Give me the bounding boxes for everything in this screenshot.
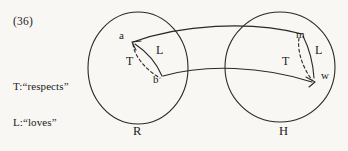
node-label-b: b [153, 74, 159, 86]
example-number: (36) [13, 15, 33, 27]
legend-line-T: T:“respects” [13, 81, 69, 93]
relation-label-T-left: T [126, 55, 133, 68]
relation-label-L-right: L [315, 44, 322, 57]
circle-H [225, 12, 335, 122]
node-label-m: m [296, 29, 305, 41]
relation-T-right-arc [299, 38, 312, 80]
band-bottom-edge [163, 68, 312, 82]
set-label-R: R [133, 125, 141, 138]
legend-line-L: L:“loves” [13, 117, 69, 129]
node-label-a: a [119, 30, 124, 42]
circle-R [88, 12, 188, 124]
relation-L-right-arc [303, 36, 314, 78]
band-top-edge [133, 26, 302, 42]
figure-container: (36) T:“respects” L:“loves” a b m w T L … [0, 0, 348, 151]
legend: T:“respects” L:“loves” [13, 58, 69, 151]
relation-label-T-right: T [282, 55, 289, 68]
node-label-w: w [321, 70, 329, 82]
relation-label-L-left: L [156, 44, 163, 57]
set-label-H: H [279, 125, 288, 138]
